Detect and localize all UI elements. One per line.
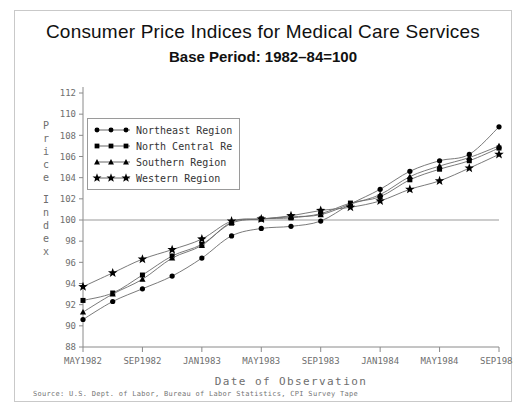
y-axis-tick-label: 106 bbox=[60, 152, 76, 162]
chart-frame: Consumer Price Indices for Medical Care … bbox=[14, 10, 512, 402]
y-axis-tick-label: 100 bbox=[60, 215, 76, 225]
y-axis-tick-label: 88 bbox=[65, 342, 76, 352]
data-point-marker bbox=[496, 124, 501, 129]
y-axis-tick-label: 94 bbox=[65, 279, 76, 289]
chart-svg: 889092949698100102104106108110112MAY1982… bbox=[15, 11, 513, 403]
data-point-marker bbox=[437, 158, 442, 163]
y-axis-tick-label: 104 bbox=[60, 173, 76, 183]
data-point-marker bbox=[435, 176, 445, 185]
y-axis-tick-label: 110 bbox=[60, 109, 76, 119]
data-point-marker bbox=[199, 256, 204, 261]
x-axis-tick-label: SEP1983 bbox=[302, 356, 340, 366]
x-axis-tick-label: JAN1983 bbox=[183, 356, 221, 366]
data-point-marker bbox=[167, 245, 177, 254]
data-point-marker bbox=[375, 196, 385, 205]
x-axis-tick-label: JAN1984 bbox=[361, 356, 399, 366]
data-point-marker bbox=[80, 317, 85, 322]
x-axis-tick-label: MAY1984 bbox=[421, 356, 459, 366]
data-point-marker bbox=[110, 299, 115, 304]
plot-area: 889092949698100102104106108110112MAY1982… bbox=[15, 11, 513, 403]
data-point-marker bbox=[259, 226, 264, 231]
legend-marker-star-icon bbox=[92, 171, 134, 185]
legend-label: Northeast Region bbox=[134, 125, 232, 136]
legend-marker-triangle-icon bbox=[92, 155, 134, 169]
legend-label: Southern Region bbox=[134, 157, 226, 168]
y-axis-tick-label: 108 bbox=[60, 131, 76, 141]
data-point-marker bbox=[318, 218, 323, 223]
y-axis-tick-label: 112 bbox=[60, 88, 76, 98]
data-point-marker bbox=[257, 214, 267, 223]
y-axis-tick-label: 98 bbox=[65, 236, 76, 246]
legend-marker-square-icon bbox=[92, 139, 134, 153]
data-point-marker bbox=[407, 173, 413, 179]
legend-marker-circle-icon bbox=[92, 123, 134, 137]
data-point-marker bbox=[288, 224, 293, 229]
y-axis-tick-label: 90 bbox=[65, 321, 76, 331]
legend-item: Western Region bbox=[92, 170, 232, 186]
legend-item: Northeast Region bbox=[92, 122, 232, 138]
y-axis-tick-label: 96 bbox=[65, 258, 76, 268]
data-point-marker bbox=[81, 298, 86, 303]
data-point-marker bbox=[465, 163, 475, 172]
legend-item: North Central Re bbox=[92, 138, 232, 154]
y-axis-tick-label: 102 bbox=[60, 194, 76, 204]
x-axis-tick-label: MAY1983 bbox=[242, 356, 280, 366]
data-point-marker bbox=[378, 187, 383, 192]
data-point-marker bbox=[80, 309, 86, 315]
data-point-marker bbox=[407, 169, 412, 174]
x-axis-tick-label: MAY1982 bbox=[64, 356, 102, 366]
legend-label: Western Region bbox=[134, 173, 220, 184]
x-axis-title: Date of Observation bbox=[215, 375, 367, 388]
data-point-marker bbox=[494, 149, 504, 158]
x-axis-tick-label: SEP1982 bbox=[123, 356, 161, 366]
source-note: Source: U.S. Dept. of Labor, Bureau of L… bbox=[33, 390, 358, 398]
legend-label: North Central Re bbox=[134, 141, 232, 152]
legend-item: Southern Region bbox=[92, 154, 232, 170]
data-point-marker bbox=[108, 268, 118, 277]
x-axis-tick-label: SEP1984 bbox=[480, 356, 513, 366]
data-point-marker bbox=[229, 233, 234, 238]
data-point-marker bbox=[405, 184, 415, 193]
data-point-marker bbox=[170, 273, 175, 278]
data-point-marker bbox=[138, 254, 148, 263]
data-point-marker bbox=[140, 286, 145, 291]
y-axis-tick-label: 92 bbox=[65, 300, 76, 310]
chart-legend: Northeast RegionNorth Central ReSouthern… bbox=[87, 118, 240, 190]
